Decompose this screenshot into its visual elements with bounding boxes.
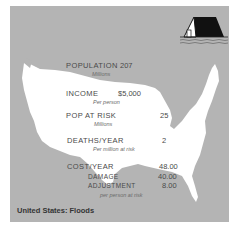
income-unit: Per person bbox=[93, 99, 120, 105]
adjustment-label: ADJUSTMENT bbox=[88, 182, 136, 189]
deaths-value: 2 bbox=[162, 136, 212, 145]
population-value: 207 bbox=[120, 61, 170, 70]
pop-at-risk-value: 25 bbox=[160, 111, 210, 120]
damage-label: DAMAGE bbox=[88, 173, 119, 180]
pop-at-risk-unit: Millions bbox=[94, 121, 112, 127]
cost-value: 48.00 bbox=[159, 162, 209, 171]
adjustment-value: 8.00 bbox=[162, 181, 212, 190]
damage-value: 40.00 bbox=[158, 172, 208, 181]
deaths-label: DEATHS/YEAR bbox=[67, 136, 124, 145]
income-label: INCOME bbox=[66, 89, 98, 98]
deaths-unit: Per million at risk bbox=[93, 146, 135, 152]
population-unit: Millions bbox=[92, 71, 110, 77]
income-value: $5,000 bbox=[118, 89, 168, 98]
population-label: POPULATION bbox=[66, 61, 118, 70]
figure-caption: United States: Floods bbox=[17, 206, 94, 215]
pop-at-risk-label: POP AT RISK bbox=[66, 111, 116, 120]
cost-unit: per person at risk bbox=[100, 192, 143, 198]
flooded-house-icon bbox=[180, 15, 228, 47]
cost-label: COST/YEAR bbox=[67, 162, 114, 171]
